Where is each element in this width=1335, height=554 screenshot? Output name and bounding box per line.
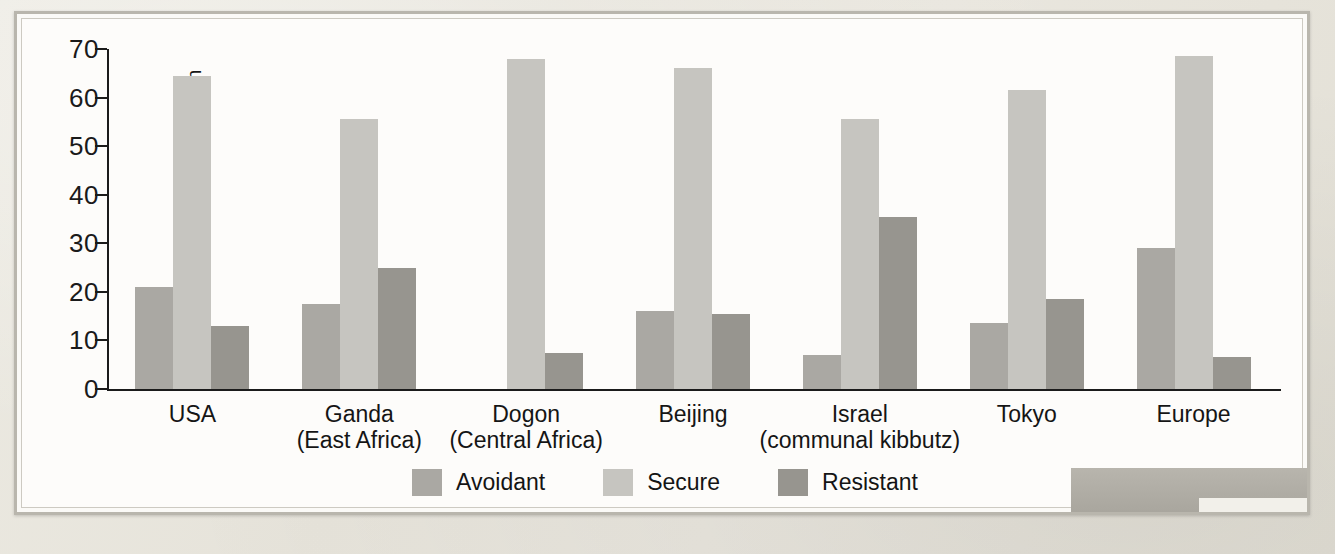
x-axis-group-label-main: Beijing — [658, 401, 727, 427]
bar-resistant — [211, 326, 249, 389]
scan-artifact-highlight — [1199, 498, 1307, 512]
bar-groups: USAGanda(East Africa)Dogon(Central Afric… — [109, 49, 1277, 389]
bar-resistant — [378, 268, 416, 389]
y-axis-tick-label: 70 — [69, 34, 99, 65]
bar-resistant — [879, 217, 917, 389]
bar-group: Beijing — [610, 49, 777, 389]
x-axis-group-label-main: Tokyo — [997, 401, 1057, 427]
y-axis-tick-label: 60 — [69, 82, 99, 113]
bar-avoidant — [135, 287, 173, 389]
bar-resistant — [1046, 299, 1084, 389]
x-axis-group-label-main: Europe — [1156, 401, 1230, 427]
legend-item: Avoidant — [412, 469, 545, 496]
legend-swatch-secure — [603, 469, 633, 496]
legend-item: Secure — [603, 469, 720, 496]
bar-avoidant — [970, 323, 1008, 389]
y-axis-tick-label: 40 — [69, 179, 99, 210]
x-axis-group-label-sub: (East Africa) — [297, 427, 422, 453]
x-axis-line — [107, 389, 1281, 391]
legend-item: Resistant — [778, 469, 918, 496]
x-axis-group-label: Europe — [1156, 401, 1230, 427]
bar-group: Israel(communal kibbutz) — [776, 49, 943, 389]
x-axis-group-label-sub: (Central Africa) — [449, 427, 602, 453]
x-axis-group-label: Beijing — [658, 401, 727, 427]
x-axis-group-label-main: Israel — [832, 401, 888, 427]
y-axis-tick-label: 0 — [84, 374, 99, 405]
figure-frame: 706050403020100 Percent attachment class… — [14, 11, 1310, 515]
bar-secure — [1175, 56, 1213, 389]
bar-resistant — [545, 353, 583, 389]
bar-group: Dogon(Central Africa) — [443, 49, 610, 389]
bar-resistant — [712, 314, 750, 389]
legend-label-avoidant: Avoidant — [456, 469, 545, 496]
bar-chart: 706050403020100 Percent attachment class… — [17, 14, 1313, 518]
legend-swatch-avoidant — [412, 469, 442, 496]
bar-avoidant — [636, 311, 674, 389]
bar-resistant — [1213, 357, 1251, 389]
x-axis-group-label: Dogon(Central Africa) — [449, 401, 602, 454]
bar-secure — [173, 76, 211, 389]
x-axis-group-label: Tokyo — [997, 401, 1057, 427]
legend-label-secure: Secure — [647, 469, 720, 496]
bar-group: USA — [109, 49, 276, 389]
bar-group: Ganda(East Africa) — [276, 49, 443, 389]
x-axis-group-label-main: USA — [169, 401, 216, 427]
bar-group: Tokyo — [943, 49, 1110, 389]
bar-avoidant — [1137, 248, 1175, 389]
bar-secure — [1008, 90, 1046, 389]
bar-group: Europe — [1110, 49, 1277, 389]
bar-secure — [340, 119, 378, 389]
y-axis-tick-label: 20 — [69, 276, 99, 307]
y-axis-tick-label: 30 — [69, 228, 99, 259]
legend-label-resistant: Resistant — [822, 469, 918, 496]
y-axis-tick-label: 50 — [69, 131, 99, 162]
x-axis-group-label: Ganda(East Africa) — [297, 401, 422, 454]
x-axis-group-label-main: Dogon — [492, 401, 560, 427]
bar-secure — [674, 68, 712, 389]
bar-secure — [841, 119, 879, 389]
y-axis-tick-label: 10 — [69, 325, 99, 356]
legend-swatch-resistant — [778, 469, 808, 496]
x-axis-group-label: USA — [169, 401, 216, 427]
x-axis-group-label: Israel(communal kibbutz) — [760, 401, 961, 454]
bar-avoidant — [302, 304, 340, 389]
x-axis-group-label-sub: (communal kibbutz) — [760, 427, 961, 453]
bar-secure — [507, 59, 545, 389]
x-axis-group-label-main: Ganda — [325, 401, 394, 427]
bar-avoidant — [803, 355, 841, 389]
plot-area: 706050403020100 Percent attachment class… — [107, 49, 1277, 389]
